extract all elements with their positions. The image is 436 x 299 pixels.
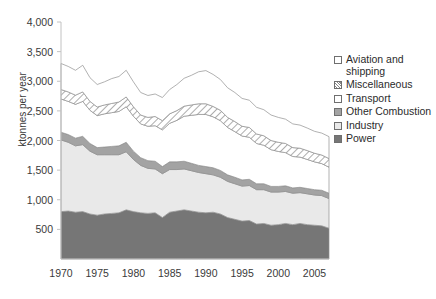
x-axis-tick-label: 1970	[49, 267, 72, 279]
legend-entry[interactable]: Industry	[334, 120, 436, 132]
legend-entry[interactable]: Transport	[334, 93, 436, 105]
hatched-swatch-icon	[334, 81, 342, 89]
x-axis-tick-label: 1990	[194, 267, 217, 279]
x-axis-tick-label: 2005	[303, 267, 326, 279]
x-axis-tick-label: 1985	[158, 267, 181, 279]
stacked-area-chart: ktonnes per year 4,0003,5003,0002,5002,0…	[0, 0, 436, 299]
legend-entry[interactable]: Other Combustion	[334, 106, 436, 118]
legend-entry[interactable]: Aviation and shipping	[334, 54, 436, 77]
x-axis-tick-labels: 19701975198019851990199520002005	[0, 0, 436, 299]
x-axis-tick-label: 1975	[86, 267, 109, 279]
legend-label: Miscellaneous	[346, 79, 413, 91]
dark-gray-swatch-icon	[334, 135, 342, 143]
gray-swatch-icon	[334, 108, 342, 116]
x-axis-tick-label: 1980	[122, 267, 145, 279]
legend-label: Industry	[346, 120, 383, 132]
legend-entry[interactable]: Power	[334, 133, 436, 145]
x-axis-tick-label: 1995	[230, 267, 253, 279]
legend-label: Other Combustion	[346, 106, 431, 118]
chart-legend: Aviation and shippingMiscellaneousTransp…	[334, 54, 436, 147]
light-gray-swatch-icon	[334, 122, 342, 130]
legend-label: Power	[346, 133, 376, 145]
legend-entry[interactable]: Miscellaneous	[334, 79, 436, 91]
legend-label: Transport	[346, 93, 391, 105]
white-swatch-icon	[334, 56, 342, 64]
white-swatch-icon	[334, 95, 342, 103]
legend-label: Aviation and shipping	[346, 54, 436, 77]
x-axis-tick-label: 2000	[267, 267, 290, 279]
